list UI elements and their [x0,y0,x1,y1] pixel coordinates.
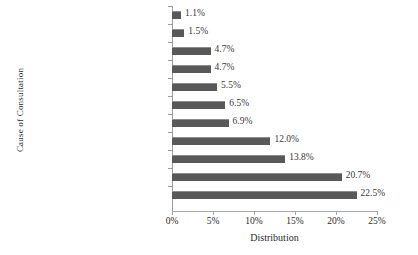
bar-value-label: 1.1% [185,8,205,18]
y-axis-tick [168,186,172,187]
bar-value-label: 5.5% [221,80,241,90]
x-axis-tick-label: 15% [275,216,315,226]
y-axis-tick [168,132,172,133]
x-axis-tick [377,211,378,215]
x-axis-tick [254,211,255,215]
bar-value-label: 6.9% [233,116,253,126]
bar-value-label: 12.0% [274,134,299,144]
bar [172,65,211,73]
y-axis-tick [168,168,172,169]
bar-row: check-up visit13.8% [172,150,377,168]
bar [172,155,285,163]
y-axis-tick [168,78,172,79]
bar-row: denture missing4.7% [172,42,377,60]
x-axis-tick [172,211,173,215]
y-axis-tick [168,6,172,7]
x-axis-tick-label: 25% [357,216,397,226]
bar [172,101,225,109]
bar-value-label: 20.7% [346,170,371,180]
x-axis-tick [336,211,337,215]
bar-value-label: 4.7% [215,62,235,72]
bar [172,137,270,145]
bar-value-label: 6.5% [229,98,249,108]
bar-value-label: 1.5% [188,26,208,36]
bar-row: halitosis1.1% [172,6,377,24]
bar [172,47,211,55]
x-axis-tick-label: 0% [152,216,192,226]
y-axis-title: Cause of Consultation [15,15,25,205]
bar-chart: Cause of Consultation halitosis1.1%chewi… [0,0,418,255]
bar-value-label: 13.8% [289,152,314,162]
bar [172,29,184,37]
bar-row: oral hygiene4.7% [172,60,377,78]
bar-row: pain/ toothache22.5% [172,186,377,204]
x-axis-tick-label: 20% [316,216,356,226]
bar-row: denture reline and repair6.9% [172,114,377,132]
y-axis-tick [168,24,172,25]
bar-value-label: 4.7% [215,44,235,54]
bar-row: lack of denture retention6.5% [172,96,377,114]
bar [172,11,181,19]
x-axis-title: Distribution [172,232,377,243]
bar [172,83,217,91]
bar-row: chewing difficulties1.5% [172,24,377,42]
bar [172,191,357,199]
y-axis-tick [168,42,172,43]
y-axis-tick [168,60,172,61]
bar [172,119,229,127]
bar-value-label: 22.5% [361,188,386,198]
plot-area: halitosis1.1%chewing difficulties1.5%den… [172,6,377,211]
bar-row: denture fabrication20.7% [172,168,377,186]
y-axis-tick [168,114,172,115]
x-axis-tick-label: 5% [193,216,233,226]
x-axis-tick-label: 10% [234,216,274,226]
x-axis-tick [295,211,296,215]
y-axis-tick [168,150,172,151]
x-axis-line [172,211,377,212]
bar-row: other&not specified5.5% [172,78,377,96]
x-axis-tick [213,211,214,215]
bar [172,173,342,181]
y-axis-tick [168,96,172,97]
bar-row: problem with natural tooth12.0% [172,132,377,150]
